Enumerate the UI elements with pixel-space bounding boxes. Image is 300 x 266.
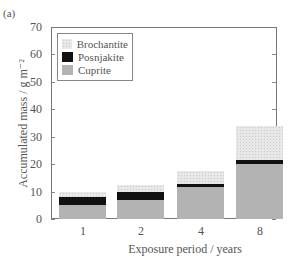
y-tick-label: 30: [20, 131, 42, 143]
bar-segment-brochantite: [117, 185, 164, 192]
bar-segment-posnjakite: [117, 192, 164, 200]
y-tick-label: 0: [20, 213, 42, 225]
bar-segment-cuprite: [236, 164, 283, 219]
x-tick-label: 2: [131, 224, 151, 239]
bar-segment-brochantite: [177, 171, 224, 184]
x-axis-label: Exposure period / years: [90, 242, 280, 257]
y-tick-label: 50: [20, 76, 42, 88]
legend-item-posnjakite: Posnjakite: [62, 50, 128, 63]
stacked-bar-4: [177, 171, 224, 219]
stacked-bar-2: [117, 185, 164, 219]
legend: Brochantite Posnjakite Cuprite: [57, 33, 133, 81]
legend-label: Posnjakite: [78, 51, 124, 63]
y-tick-label: 10: [20, 186, 42, 198]
legend-item-brochantite: Brochantite: [62, 37, 128, 50]
legend-swatch-cuprite: [62, 65, 73, 75]
bar-segment-cuprite: [117, 200, 164, 219]
legend-item-cuprite: Cuprite: [62, 63, 128, 76]
stacked-bar-1: [59, 192, 106, 219]
y-tick-label: 20: [20, 158, 42, 170]
y-tick-label: 40: [20, 103, 42, 115]
bar-segment-cuprite: [59, 205, 106, 219]
y-axis-label: Accumulated mass / g m⁻²: [16, 54, 31, 194]
stacked-bar-8: [236, 126, 283, 219]
legend-swatch-posnjakite: [62, 52, 73, 62]
y-tick: [51, 219, 55, 220]
legend-swatch-brochantite: [62, 39, 72, 49]
bar-segment-posnjakite: [59, 197, 106, 205]
y-tick-label: 70: [20, 21, 42, 33]
bar-segment-cuprite: [177, 187, 224, 219]
bar-segment-brochantite: [236, 126, 283, 160]
x-tick-label: 4: [191, 224, 211, 239]
panel-label: (a): [3, 7, 15, 19]
legend-label: Cuprite: [78, 64, 111, 76]
legend-label: Brochantite: [77, 38, 128, 50]
x-tick-label: 8: [250, 224, 270, 239]
x-tick-label: 1: [73, 224, 93, 239]
y-tick-right: [272, 219, 276, 220]
y-tick-label: 60: [20, 48, 42, 60]
